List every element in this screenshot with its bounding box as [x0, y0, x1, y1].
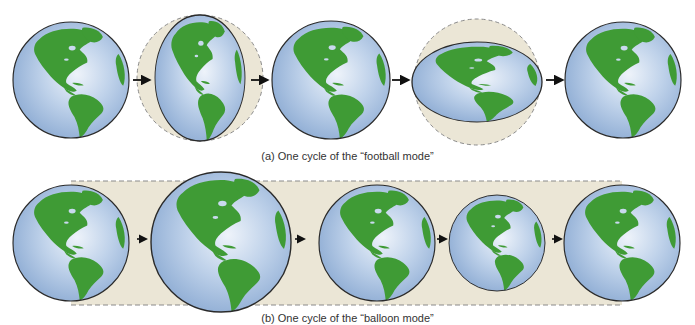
- caption-football-mode: (a) One cycle of the “football mode”: [0, 150, 695, 162]
- globe-sphere: [13, 22, 129, 138]
- globe-sphere: [319, 185, 435, 301]
- globe-contracted: [449, 195, 545, 291]
- globe-sphere: [13, 185, 129, 301]
- globe-sphere: [565, 22, 681, 138]
- globe-oblate: [412, 42, 542, 122]
- globe-expanded: [151, 172, 291, 312]
- oscillation-modes-figure: [0, 0, 695, 325]
- panel-a-football-mode: [13, 15, 681, 145]
- globe-sphere: [272, 21, 390, 139]
- globe-prolate: [155, 15, 245, 141]
- globe-sphere: [564, 185, 680, 301]
- panel-b-balloon-mode: [13, 172, 680, 312]
- caption-balloon-mode: (b) One cycle of the “balloon mode”: [0, 312, 695, 324]
